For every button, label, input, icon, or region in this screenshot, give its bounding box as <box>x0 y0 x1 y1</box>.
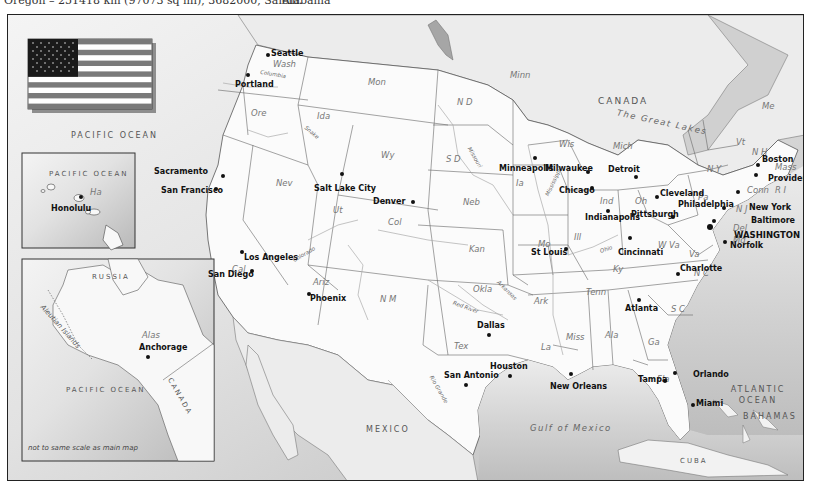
state-label-sc: S C <box>671 305 685 314</box>
state-label-nj: N J <box>736 205 748 214</box>
alaska-canada-label: CANADA <box>166 377 193 417</box>
mexico-label: MEXICO <box>366 426 410 434</box>
city-detroit: Detroit <box>608 166 640 174</box>
state-label-mass: Mass <box>775 163 796 172</box>
city-portland: Portland <box>235 81 274 89</box>
state-label-ala: Ala <box>605 331 618 340</box>
hawaii-ocean-label: PACIFIC OCEAN <box>49 171 128 178</box>
state-label-sd: S D <box>446 155 461 164</box>
state-label-nev: Nev <box>276 179 293 188</box>
aleutian-islands-label: Aleutian Islands <box>39 304 81 350</box>
city-dot-denver <box>411 200 415 204</box>
city-dot-providence <box>754 173 758 177</box>
city-tampa: Tampa <box>638 376 667 384</box>
city-dot-new-orleans <box>569 372 573 376</box>
cuba-label: CUBA <box>680 458 708 465</box>
city-orlando: Orlando <box>693 371 729 379</box>
state-label-ny: N Y <box>707 165 721 174</box>
city-new-york: New York <box>749 204 791 212</box>
city-san-diego: San Diego <box>208 271 254 279</box>
state-label-tenn: Tenn <box>586 288 606 297</box>
city-dot-norfolk <box>723 240 727 244</box>
state-label-ark: Ark <box>534 297 548 306</box>
city-dot-salt-lake-city <box>340 172 344 176</box>
state-label-ha: Ha <box>90 188 102 197</box>
city-dot-anchorage <box>146 355 150 359</box>
state-label-ia: Ia <box>516 179 524 188</box>
state-label-la: La <box>541 343 551 352</box>
state-label-ind: Ind <box>600 197 613 206</box>
city-seattle: Seattle <box>271 50 303 58</box>
state-label-ri: R I <box>775 186 786 195</box>
state-label-mich: Mich <box>613 142 633 151</box>
city-cleveland: Cleveland <box>660 190 704 198</box>
state-label-wash: Wash <box>273 60 296 69</box>
city-dot-honolulu <box>79 195 83 199</box>
city-dot-seattle <box>266 53 270 57</box>
city-chicago: Chicago <box>559 187 595 195</box>
us-flag <box>28 39 156 113</box>
state-label-ga: Ga <box>648 338 660 347</box>
city-charlotte: Charlotte <box>680 265 722 273</box>
city-norfolk: Norfolk <box>730 242 763 250</box>
state-label-mon: Mon <box>368 78 386 87</box>
state-label-oh: Oh <box>635 197 647 206</box>
city-boston: Boston <box>762 156 793 164</box>
gulf-of-mexico-label: Gulf of Mexico <box>530 424 612 433</box>
city-st-louis: St Louis <box>531 249 567 257</box>
city-dot-minneapolis <box>533 156 537 160</box>
city-dot-washington-dc <box>707 224 713 230</box>
scale-note: not to same scale as main map <box>28 445 138 452</box>
state-label-ky: Ky <box>613 265 623 274</box>
state-label-ida: Ida <box>317 112 330 121</box>
russia-label: RUSSIA <box>92 274 130 281</box>
city-dot-baltimore <box>712 219 716 223</box>
city-denver: Denver <box>373 198 405 206</box>
state-label-tex: Tex <box>454 342 468 351</box>
city-miami: Miami <box>696 400 723 408</box>
atlantic-ocean-label: ATLANTIC OCEAN <box>728 384 788 406</box>
city-dot-atlanta <box>637 298 641 302</box>
city-dot-cleveland <box>655 195 659 199</box>
city-pittsburgh: Pittsburgh <box>631 211 679 219</box>
city-dot-houston <box>508 374 512 378</box>
city-los-angeles: Los Angeles <box>244 254 298 262</box>
state-label-col: Col <box>388 218 402 227</box>
city-dot-san-antonio <box>464 383 468 387</box>
city-new-orleans: New Orleans <box>550 383 607 391</box>
city-dot-orlando <box>673 371 677 375</box>
state-label-vt: Vt <box>736 138 745 147</box>
state-label-ore: Ore <box>251 109 266 118</box>
city-sacramento: Sacramento <box>154 168 208 176</box>
state-label-ill: Ill <box>574 233 581 242</box>
state-label-conn: Conn <box>747 186 769 195</box>
state-label-neb: Neb <box>463 198 480 207</box>
alaska-inset: RUSSIA Aleutian Islands Alas Anchorage P… <box>22 259 214 461</box>
state-label-okla: Okla <box>473 285 492 294</box>
city-dot-new-york <box>736 190 740 194</box>
state-label-wy: Wy <box>381 151 394 160</box>
city-dot-miami <box>691 403 695 407</box>
bahamas-label: BAHAMAS <box>743 413 797 421</box>
state-label-miss: Miss <box>566 333 585 342</box>
pacific-ocean-label: PACIFIC OCEAN <box>71 132 158 140</box>
city-san-antonio: San Antonio <box>444 372 499 380</box>
city-houston: Houston <box>490 363 528 371</box>
city-baltimore: Baltimore <box>751 217 795 225</box>
city-dot-dallas <box>487 333 491 337</box>
city-dot-sacramento <box>221 174 225 178</box>
city-philadelphia: Philadelphia <box>678 201 734 209</box>
state-label-nd: N D <box>457 98 473 107</box>
state-label-nm: N M <box>380 295 396 304</box>
state-label-kan: Kan <box>469 245 485 254</box>
state-label-wis: Wis <box>559 140 574 149</box>
state-label-va: Va <box>689 250 699 259</box>
city-phoenix: Phoenix <box>310 295 346 303</box>
city-anchorage: Anchorage <box>139 344 187 352</box>
clipped-header-right: Alabama <box>282 0 331 7</box>
city-dot-detroit <box>634 175 638 179</box>
city-san-francisco: San Francisco <box>161 187 223 195</box>
city-cincinnati: Cincinnati <box>618 249 663 257</box>
state-label-ut: Ut <box>333 206 343 215</box>
city-atlanta: Atlanta <box>625 305 658 313</box>
